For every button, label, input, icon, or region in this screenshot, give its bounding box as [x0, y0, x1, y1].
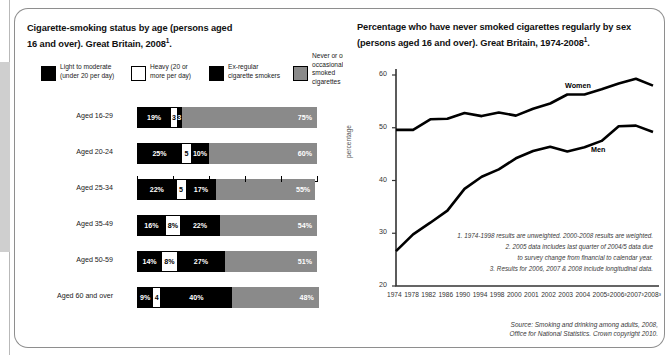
legend-label-ex-regular: Ex-regular cigarette smokers	[228, 63, 298, 80]
legend-label-heavy: Heavy (20 or more per day)	[150, 63, 212, 80]
line-chart-x-tick-label: 2005²	[593, 291, 610, 298]
chart-note-3: to survey change from financial to calen…	[517, 254, 653, 261]
source-line2: Office for National Statistics. Crown co…	[510, 330, 658, 337]
line-chart-x-tick-label: 2008³	[644, 291, 661, 298]
bar-segment: 60%	[209, 143, 317, 164]
bar-row: Aged 35-4916%8%22%54%	[35, 212, 340, 238]
line-chart-y-tick-label: 40	[373, 176, 387, 184]
bar-row-separator	[137, 274, 317, 284]
line-chart-y-tick-label: 30	[373, 228, 387, 236]
legend-light-l2: (under 20 per day)	[60, 72, 114, 79]
bar-row: Aged 50-5914%8%27%51%	[35, 248, 340, 274]
line-chart-x-tick-label: 1978	[404, 291, 419, 298]
bar-segment: 4	[153, 287, 160, 308]
line-chart-x-tick-label: 2007³	[627, 291, 644, 298]
bar-row-label: Aged 50-59	[35, 256, 113, 264]
scan-artifact-top	[0, 0, 10, 62]
bar-segment: 16%	[137, 215, 166, 236]
bar-segment: 27%	[177, 251, 226, 272]
legend-swatch-black-ex	[209, 66, 224, 81]
bar-track: 14%8%27%51%	[137, 251, 317, 272]
bar-chart: Aged 16-2919%3375%Aged 20-2425%510%60%Ag…	[35, 97, 340, 337]
chart-note-1: 1. 1974-1998 results are unweighted. 200…	[457, 232, 653, 239]
line-chart-x-tick-label: 1994	[473, 291, 488, 298]
legend-heavy-l1: Heavy (20 or	[150, 63, 188, 70]
line-chart-y-tick-label: 60	[373, 70, 387, 78]
legend-never-l3: smoked	[312, 69, 335, 76]
bar-segment: 17%	[186, 179, 217, 200]
bar-axis-tick-top	[137, 176, 138, 182]
left-panel-title: Cigarette-smoking status by age (persons…	[27, 22, 327, 50]
bar-segment: 25%	[137, 143, 182, 164]
line-chart-x-tick-label: 2006³	[610, 291, 627, 298]
bar-axis-tick-top	[209, 176, 210, 182]
bar-row-label: Aged 16-29	[35, 112, 113, 120]
bar-chart-legend: Light to moderate (under 20 per day) Hea…	[41, 61, 341, 95]
bar-segment: 55%	[216, 179, 315, 200]
legend-swatch-black-light	[41, 66, 56, 81]
bar-segment: 75%	[182, 107, 317, 128]
chart-note-4: 3. Results for 2006, 2007 & 2008 include…	[490, 265, 653, 272]
bar-segment: 48%	[232, 287, 318, 308]
bar-track: 25%510%60%	[137, 143, 317, 164]
line-chart-x-tick-label: 1974	[387, 291, 402, 298]
bar-row-separator	[137, 166, 317, 176]
legend-label-light-to-moderate: Light to moderate (under 20 per day)	[60, 63, 122, 80]
bar-track: 19%3375%	[137, 107, 317, 128]
bar-segment: 19%	[137, 107, 171, 128]
line-chart-x-tick-label: 2001	[524, 291, 539, 298]
bar-axis-tick-top	[281, 176, 282, 182]
left-title-line2: 16 and over). Great Britain, 2008	[27, 39, 166, 49]
line-chart: Percentage who have never smoked cigaret…	[343, 8, 665, 348]
bar-segment: 8%	[166, 215, 180, 236]
line-chart-x-tick-label: 2000	[507, 291, 522, 298]
bar-segment: 10%	[191, 143, 209, 164]
line-chart-x-tick-label: 1998	[490, 291, 505, 298]
bar-row: Aged 60 and over9%440%48%	[35, 284, 340, 310]
legend-never-l4: cigarettes	[312, 78, 341, 85]
bar-row-separator	[137, 202, 317, 212]
line-chart-x-tick-label: 2004	[575, 291, 590, 298]
bar-segment: 5	[177, 179, 186, 200]
bar-segment: 22%	[180, 215, 220, 236]
line-chart-x-tick-label: 1982	[421, 291, 436, 298]
line-chart-y-tick-label: 50	[373, 123, 387, 131]
legend-swatch-grey-never	[293, 66, 308, 81]
bar-row-label: Aged 60 and over	[35, 292, 113, 300]
bar-segment: 9%	[137, 287, 153, 308]
legend-swatch-white-heavy	[131, 66, 146, 81]
legend-ex-l2: cigarette smokers	[228, 72, 280, 79]
bar-track: 22%517%55%	[137, 179, 317, 200]
screenshot-page: Cigarette-smoking status by age (persons…	[0, 0, 672, 355]
line-series-women	[396, 79, 653, 130]
bar-row-label: Aged 20-24	[35, 148, 113, 156]
bar-segment: 22%	[137, 179, 177, 200]
line-chart-x-tick-label: 1986	[438, 291, 453, 298]
line-chart-x-tick-label: 1990	[456, 291, 471, 298]
left-title-period: .	[169, 39, 171, 49]
chart-note-2: 2. 2005 data includes last quarter of 20…	[506, 243, 653, 250]
bar-segment: 8%	[162, 251, 176, 272]
bar-track: 9%440%48%	[137, 287, 317, 308]
bar-segment: 40%	[160, 287, 232, 308]
bar-row-separator	[137, 130, 317, 140]
bar-segment: 54%	[220, 215, 317, 236]
left-chart-panel: Cigarette-smoking status by age (persons…	[14, 8, 344, 348]
legend-ex-l1: Ex-regular	[228, 63, 258, 70]
series-label-men: Men	[591, 145, 605, 154]
bar-row-label: Aged 35-49	[35, 220, 113, 228]
left-title-line1: Cigarette-smoking status by age (persons…	[27, 23, 232, 33]
bar-axis-tick-top	[173, 176, 174, 182]
bar-segment: 51%	[225, 251, 317, 272]
line-chart-y-tick-label: 20	[373, 281, 387, 289]
legend-light-l1: Light to moderate	[60, 63, 111, 70]
bar-row-separator	[137, 310, 317, 320]
bar-axis-tick-top	[317, 176, 318, 182]
bar-segment: 5	[182, 143, 191, 164]
line-chart-x-tick-label: 2003	[558, 291, 573, 298]
source-line1: Source: Smoking and drinking among adult…	[511, 321, 658, 328]
bar-track: 16%8%22%54%	[137, 215, 317, 236]
source-citation: Source: Smoking and drinking among adult…	[510, 320, 658, 338]
scan-artifact-bottom	[0, 252, 10, 355]
bar-row: Aged 20-2425%510%60%	[35, 140, 340, 166]
